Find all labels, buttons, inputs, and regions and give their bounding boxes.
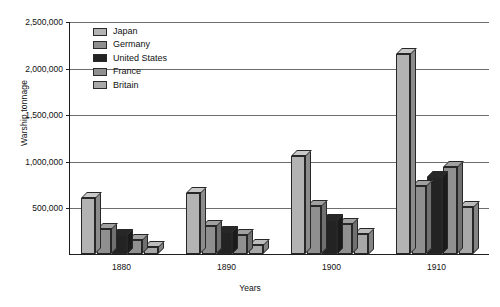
- y-tick-label: 500,000: [5, 203, 63, 213]
- legend-item-japan: Japan: [93, 25, 167, 38]
- x-tick-label: 1900: [322, 262, 341, 272]
- bar-side: [337, 214, 343, 254]
- x-tick-label: 1910: [427, 262, 446, 272]
- x-axis-label: Years: [0, 283, 500, 293]
- bar-group: [385, 22, 490, 254]
- y-tick-label: 1,500,000: [5, 110, 63, 120]
- legend-label: France: [113, 65, 141, 78]
- bar-face: [81, 198, 96, 254]
- legend-item-britain: Britain: [93, 79, 167, 92]
- bar-side: [200, 187, 206, 254]
- bar-side: [473, 201, 479, 254]
- legend-swatch-icon: [93, 81, 107, 89]
- y-tick-label: 2,000,000: [5, 64, 63, 74]
- bar-group: [175, 22, 280, 254]
- legend-swatch-icon: [93, 28, 107, 36]
- y-tick-label: 1,000,000: [5, 157, 63, 167]
- legend-item-germany: Germany: [93, 38, 167, 51]
- bar-side: [410, 48, 416, 254]
- bar-japan-1880: [81, 198, 96, 254]
- bar-face: [396, 54, 411, 254]
- bar-side: [457, 161, 463, 254]
- bar-japan-1890: [186, 193, 201, 254]
- bar-japan-1900: [291, 156, 306, 254]
- x-tick-label: 1880: [112, 262, 131, 272]
- legend: JapanGermanyUnited StatesFranceBritain: [93, 25, 167, 92]
- bar-side: [305, 150, 311, 254]
- bar-side: [442, 171, 448, 254]
- bar-japan-1910: [396, 54, 411, 254]
- chart-root: Warship tonnage 500,0001,000,0001,500,00…: [0, 0, 500, 307]
- bar-side: [95, 192, 101, 254]
- legend-swatch-icon: [93, 41, 107, 49]
- bar-side: [321, 200, 327, 254]
- y-tick-label: 2,500,000: [5, 17, 63, 27]
- legend-item-france: France: [93, 65, 167, 78]
- y-axis-tick-labels: 500,0001,000,0001,500,0002,000,0002,500,…: [5, 0, 63, 307]
- x-tick-label: 1890: [217, 262, 236, 272]
- legend-swatch-icon: [93, 54, 107, 62]
- bar-side: [426, 180, 432, 254]
- legend-swatch-icon: [93, 68, 107, 76]
- legend-label: Germany: [113, 38, 150, 51]
- legend-label: Japan: [113, 25, 138, 38]
- bar-face: [186, 193, 201, 254]
- bar-group: [280, 22, 385, 254]
- legend-label: United States: [113, 52, 167, 65]
- legend-label: Britain: [113, 79, 139, 92]
- legend-item-united-states: United States: [93, 52, 167, 65]
- bar-face: [291, 156, 306, 254]
